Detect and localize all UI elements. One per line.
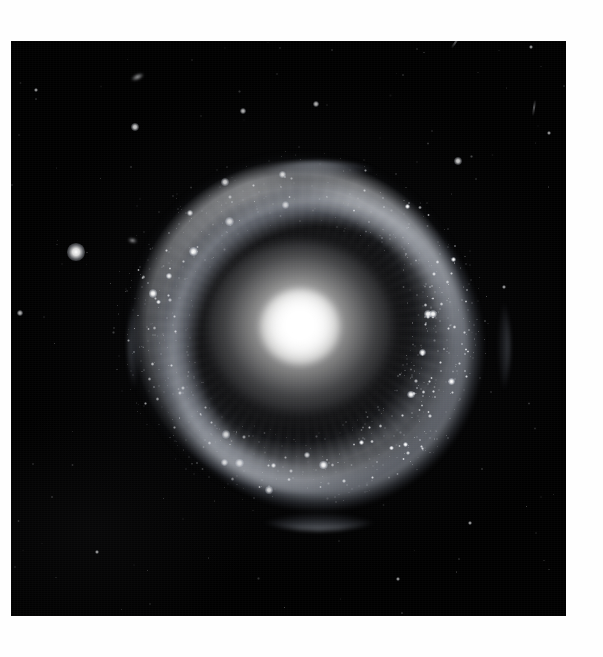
image-grain: [11, 41, 566, 616]
astronomy-image-plate: [11, 41, 566, 616]
page-canvas: [0, 0, 603, 657]
